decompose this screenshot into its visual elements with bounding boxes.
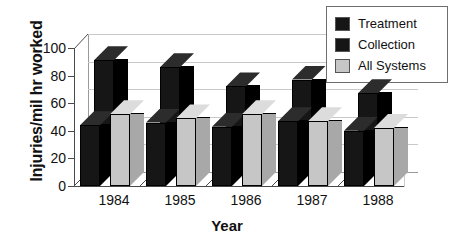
y-tick-label: 20 — [32, 151, 66, 165]
bar-treatment-1988 — [344, 131, 364, 186]
y-tick-mark — [68, 76, 74, 77]
bar-top-face — [292, 66, 326, 80]
y-tick-label: 0 — [32, 179, 66, 193]
bar-all-systems-1985 — [176, 118, 196, 186]
bar-chart-figure: Injuries/mil hr worked Year 020406080100… — [0, 0, 454, 243]
x-axis-line — [74, 186, 404, 187]
bar-front-face — [110, 114, 130, 186]
y-tick-mark — [68, 48, 74, 49]
plot-depth-right-edge — [404, 172, 424, 187]
bar-front-face — [374, 128, 394, 186]
y-tick-mark — [68, 103, 74, 104]
y-tick-label: 40 — [32, 124, 66, 138]
y-tick-mark — [68, 158, 74, 159]
bar-front-face — [146, 123, 166, 186]
bar-front-face — [242, 114, 262, 186]
x-tick-label: 1987 — [277, 192, 347, 208]
x-tick-label: 1986 — [211, 192, 281, 208]
y-axis-line — [74, 48, 75, 186]
x-tick-label: 1988 — [343, 192, 413, 208]
x-tick-label: 1985 — [145, 192, 215, 208]
y-tick-mark — [68, 186, 74, 187]
legend-item-label: Collection — [358, 37, 415, 52]
chart-legend: TreatmentCollectionAll Systems — [326, 6, 448, 83]
legend-item-collection[interactable]: Collection — [335, 34, 441, 55]
bar-front-face — [344, 131, 364, 186]
legend-item-label: Treatment — [358, 16, 417, 31]
bar-treatment-1985 — [146, 123, 166, 186]
bar-all-systems-1984 — [110, 114, 130, 186]
bar-front-face — [308, 121, 328, 186]
bar-all-systems-1986 — [242, 114, 262, 186]
bar-treatment-1986 — [212, 127, 232, 186]
bar-top-face — [160, 53, 194, 67]
bar-front-face — [176, 118, 196, 186]
legend-swatch-icon — [335, 38, 350, 52]
plot-depth-top-edge — [74, 34, 94, 49]
bar-front-face — [212, 127, 232, 186]
bar-front-face — [278, 121, 298, 186]
legend-swatch-icon — [335, 17, 350, 31]
x-axis-title: Year — [0, 217, 454, 234]
y-tick-label: 80 — [32, 69, 66, 83]
y-tick-label: 60 — [32, 96, 66, 110]
legend-swatch-icon — [335, 59, 350, 73]
x-tick-label: 1984 — [79, 192, 149, 208]
bar-all-systems-1988 — [374, 128, 394, 186]
bar-top-face — [94, 46, 128, 60]
legend-item-all-systems[interactable]: All Systems — [335, 55, 441, 76]
bar-front-face — [80, 125, 100, 186]
y-tick-label: 100 — [32, 41, 66, 55]
bar-treatment-1987 — [278, 121, 298, 186]
y-tick-mark — [68, 131, 74, 132]
bar-all-systems-1987 — [308, 121, 328, 186]
bar-treatment-1984 — [80, 125, 100, 186]
legend-item-label: All Systems — [358, 58, 426, 73]
bar-top-face — [226, 72, 260, 86]
legend-item-treatment[interactable]: Treatment — [335, 13, 441, 34]
